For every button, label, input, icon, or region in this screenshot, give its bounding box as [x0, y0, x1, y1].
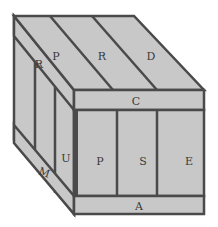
label-side-post: U [61, 152, 70, 165]
label-bottom-front-board: A [134, 200, 144, 213]
label-top-slat-2: R [98, 50, 107, 63]
label-front-slat-1: P [96, 155, 104, 168]
label-top-front-board: C [132, 95, 140, 108]
label-front-slat-3: E [185, 155, 193, 168]
label-top-slat-3: D [147, 50, 156, 63]
front-face [74, 110, 204, 196]
label-front-slat-2: S [139, 155, 147, 168]
label-top-slat-1: P [52, 50, 60, 63]
label-side-top-board: R [35, 58, 44, 71]
crate-diagram: P R D C R U M P S E A [0, 0, 218, 227]
